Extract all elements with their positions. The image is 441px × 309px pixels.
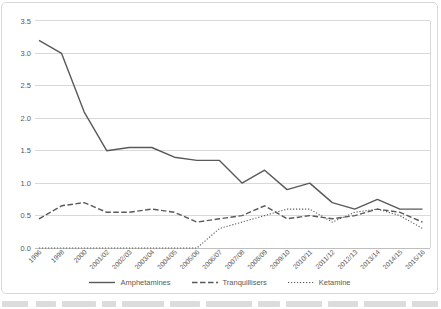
- svg-text:2008/09: 2008/09: [246, 248, 268, 269]
- svg-text:2010/11: 2010/11: [291, 248, 313, 269]
- svg-text:2012/13: 2012/13: [336, 248, 358, 269]
- svg-text:3.5: 3.5: [21, 17, 31, 26]
- svg-text:0.5: 0.5: [21, 211, 31, 220]
- gridlines: [35, 21, 430, 248]
- svg-text:3.0: 3.0: [21, 49, 31, 58]
- legend-item-tranquillisers: Tranquillisers: [191, 278, 267, 287]
- line-chart: 0.00.51.01.52.02.53.03.5 199619982000200…: [2, 3, 439, 269]
- ketamine-line-swatch: [287, 278, 315, 287]
- svg-text:2011/12: 2011/12: [314, 248, 336, 269]
- svg-text:0.0: 0.0: [21, 244, 31, 253]
- svg-text:2007/08: 2007/08: [223, 248, 245, 269]
- legend: Amphetamines Tranquillisers Ketamine: [2, 275, 437, 289]
- tranquillisers-line-swatch: [191, 278, 219, 287]
- svg-text:2013/14: 2013/14: [359, 248, 381, 269]
- svg-text:2.5: 2.5: [21, 81, 31, 90]
- svg-text:2.0: 2.0: [21, 114, 31, 123]
- legend-item-amphetamines: Amphetamines: [88, 278, 170, 287]
- svg-text:2002/03: 2002/03: [111, 248, 133, 269]
- legend-label-tranquillisers: Tranquillisers: [223, 278, 267, 287]
- legend-label-amphetamines: Amphetamines: [120, 278, 170, 287]
- svg-text:2015/16: 2015/16: [404, 248, 426, 269]
- cropped-caption-artifact: [0, 301, 441, 309]
- svg-text:2006/07: 2006/07: [201, 248, 223, 269]
- svg-text:2014/15: 2014/15: [381, 248, 403, 269]
- svg-text:2004/05: 2004/05: [156, 248, 178, 269]
- svg-text:2009/10: 2009/10: [269, 248, 291, 269]
- svg-text:1.5: 1.5: [21, 146, 31, 155]
- amphetamines-line-swatch: [88, 278, 116, 287]
- plot-series-lines: [39, 40, 423, 248]
- chart-card: 0.00.51.01.52.02.53.03.5 199619982000200…: [1, 2, 438, 294]
- y-axis-tick-labels: 0.00.51.01.52.02.53.03.5: [21, 17, 31, 253]
- svg-text:1.0: 1.0: [21, 179, 31, 188]
- svg-text:1998: 1998: [50, 248, 66, 264]
- svg-text:2005/06: 2005/06: [178, 248, 200, 269]
- x-axis-tick-labels: 1996199820002001/022002/032003/042004/05…: [27, 248, 426, 269]
- svg-text:2003/04: 2003/04: [133, 248, 155, 269]
- legend-label-ketamine: Ketamine: [319, 278, 351, 287]
- legend-item-ketamine: Ketamine: [287, 278, 351, 287]
- svg-text:2000: 2000: [72, 248, 88, 264]
- svg-text:2001/02: 2001/02: [88, 248, 110, 269]
